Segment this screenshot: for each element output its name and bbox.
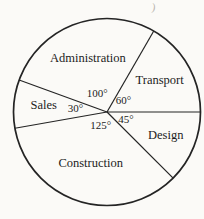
sector-label: Administration: [50, 51, 126, 65]
sector-label: Transport: [136, 73, 185, 87]
sector-angle-label: 125°: [90, 119, 111, 131]
sector-angle-label: 45°: [118, 113, 133, 125]
sector-angle-label: 30°: [68, 102, 83, 114]
sector-angle-label: 100°: [87, 87, 108, 99]
pie-chart-figure: Transport60°Administration100°Sales30°Co…: [0, 0, 204, 219]
sector-label: Sales: [30, 98, 57, 112]
sector-label: Construction: [58, 156, 123, 170]
sector-angle-label: 60°: [116, 94, 131, 106]
sector-label: Design: [148, 128, 184, 142]
pie-chart: Transport60°Administration100°Sales30°Co…: [0, 0, 204, 219]
